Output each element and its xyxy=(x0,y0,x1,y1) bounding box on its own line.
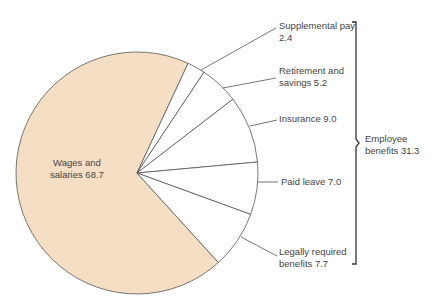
label-supplemental-line2: 2.4 xyxy=(279,32,355,44)
label-wages-line2: salaries 68.7 xyxy=(50,169,104,181)
label-group-line2: benefits 31.3 xyxy=(365,145,419,157)
label-supplemental-line1: Supplemental pay xyxy=(279,20,355,32)
label-legally-required: Legally required benefits 7.7 xyxy=(279,246,347,270)
label-employee-benefits: Employee benefits 31.3 xyxy=(365,133,419,157)
label-supplemental-pay: Supplemental pay 2.4 xyxy=(279,20,355,44)
bracket-employee-benefits xyxy=(352,22,359,264)
label-legal-line1: Legally required xyxy=(279,246,347,258)
label-legal-line2: benefits 7.7 xyxy=(279,258,347,270)
label-wages: Wages and salaries 68.7 xyxy=(50,157,104,181)
label-paid-leave: Paid leave 7.0 xyxy=(281,176,341,188)
label-wages-line1: Wages and xyxy=(50,157,104,169)
label-retirement-line1: Retirement and xyxy=(279,65,344,77)
label-insurance: Insurance 9.0 xyxy=(279,113,337,125)
label-retirement-line2: savings 5.2 xyxy=(279,77,344,89)
label-retirement: Retirement and savings 5.2 xyxy=(279,65,344,89)
label-group-line1: Employee xyxy=(365,133,419,145)
